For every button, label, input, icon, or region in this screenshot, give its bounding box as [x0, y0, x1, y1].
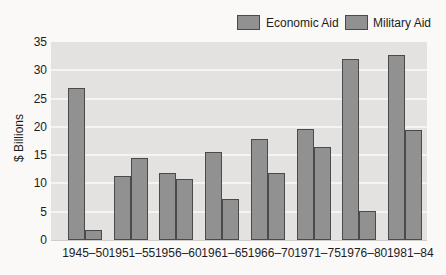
- bar-military-aid-1976-80: [359, 211, 376, 240]
- plot-area: [51, 42, 427, 241]
- legend-swatch-economic-aid: [237, 15, 260, 30]
- legend-label-economic-aid: Economic Aid: [266, 16, 339, 30]
- bar-military-aid-1961-65: [222, 199, 239, 240]
- y-tick-label-25: 25: [15, 92, 47, 106]
- bar-economic-aid-1981-84: [388, 55, 405, 240]
- bar-military-aid-1966-70: [268, 173, 285, 240]
- y-tick-label-35: 35: [15, 35, 47, 49]
- bar-economic-aid-1966-70: [251, 139, 268, 240]
- bar-military-aid-1945-50: [85, 230, 102, 240]
- foreign-aid-grouped-bar-chart: Economic Aid Military Aid $ Billions 051…: [0, 0, 446, 275]
- y-tick-label-5: 5: [15, 205, 47, 219]
- gridline-30: [51, 69, 427, 71]
- bar-military-aid-1951-55: [131, 158, 148, 240]
- bar-military-aid-1981-84: [405, 130, 422, 240]
- bar-economic-aid-1971-75: [297, 129, 314, 240]
- bar-economic-aid-1976-80: [342, 59, 359, 240]
- bar-economic-aid-1956-60: [159, 173, 176, 240]
- bar-military-aid-1971-75: [314, 147, 331, 240]
- gridline-20: [51, 126, 427, 128]
- y-tick-label-10: 10: [15, 176, 47, 190]
- bar-economic-aid-1951-55: [114, 176, 131, 240]
- x-tick-label-1981-84: 1981–84: [380, 246, 440, 260]
- gridline-15: [51, 154, 427, 156]
- gridline-25: [51, 98, 427, 100]
- bar-economic-aid-1961-65: [205, 152, 222, 240]
- bar-economic-aid-1945-50: [68, 88, 85, 240]
- legend-swatch-military-aid: [345, 15, 368, 30]
- gridline-10: [51, 182, 427, 184]
- y-tick-label-0: 0: [15, 233, 47, 247]
- y-tick-label-15: 15: [15, 148, 47, 162]
- y-tick-label-20: 20: [15, 120, 47, 134]
- y-tick-label-30: 30: [15, 63, 47, 77]
- bar-military-aid-1956-60: [176, 179, 193, 240]
- legend-label-military-aid: Military Aid: [373, 16, 431, 30]
